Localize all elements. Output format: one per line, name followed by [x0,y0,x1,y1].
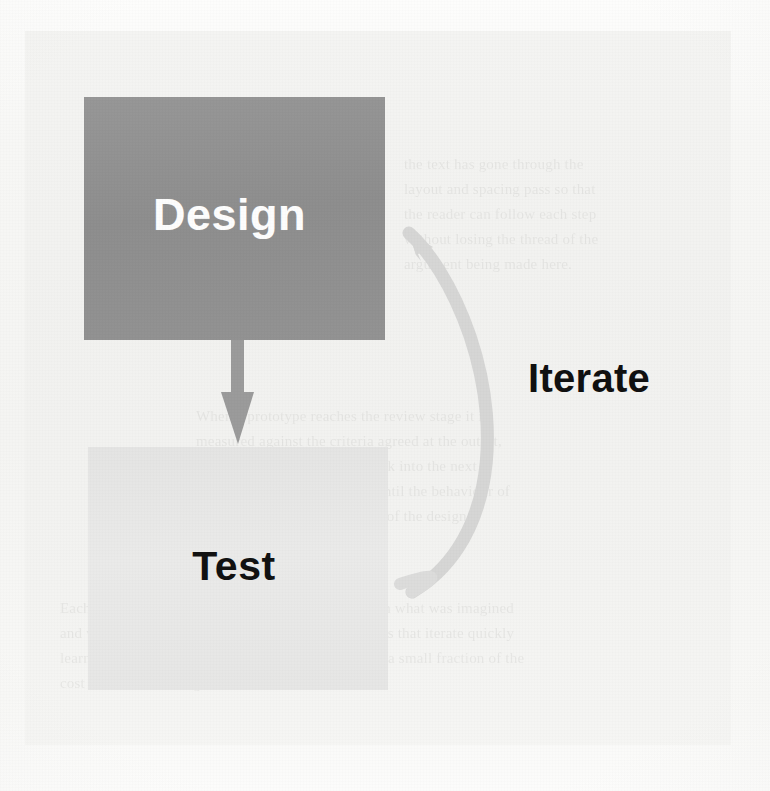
node-design[interactable]: Design [84,97,385,340]
iterate-label: Iterate [528,356,650,401]
scanned-figure-page: the text has gone through the layout and… [0,0,770,791]
node-test[interactable]: Test [88,447,388,690]
node-test-label: Test [192,543,275,590]
iterate-feedback-arrow [400,233,487,592]
design-to-test-arrow [221,336,254,444]
process-loop-diagram: Design Test Iterate [0,0,770,791]
node-design-label: Design [153,189,306,241]
